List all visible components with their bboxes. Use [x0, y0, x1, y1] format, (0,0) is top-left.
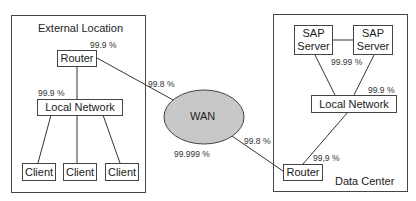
wan-datacenter-link-availability: 99.8 %: [244, 136, 270, 146]
external-router[interactable]: Router: [57, 50, 97, 67]
sap-server-1-line2: Server: [297, 40, 329, 53]
sap-server-1[interactable]: SAP Server: [294, 25, 333, 55]
dc-router-availability: 99,9 %: [313, 153, 339, 163]
sap-server-2-line1: SAP: [362, 27, 384, 40]
wan-availability: 99.999 %: [174, 149, 210, 159]
external-local-network-availability: 99.9 %: [38, 88, 64, 98]
client-3[interactable]: Client: [105, 163, 139, 181]
wan-external-link-availability: 99.8 %: [148, 79, 174, 89]
client-1[interactable]: Client: [22, 163, 56, 181]
dc-router[interactable]: Router: [283, 164, 323, 181]
sap-server-2[interactable]: SAP Server: [353, 25, 393, 55]
external-local-network[interactable]: Local Network: [37, 99, 123, 116]
data-center-title: Data Center: [335, 175, 394, 187]
external-router-availability: 99.9 %: [90, 40, 116, 50]
wan-label: WAN: [190, 110, 215, 122]
external-location-title: External Location: [38, 22, 123, 34]
dc-local-network-availability: 99.9 %: [368, 85, 394, 95]
client-2[interactable]: Client: [63, 163, 97, 181]
dc-local-network[interactable]: Local Network: [311, 95, 397, 113]
servers-availability: 99.99 %: [331, 57, 362, 67]
sap-server-2-line2: Server: [357, 40, 389, 53]
sap-server-1-line1: SAP: [302, 27, 324, 40]
